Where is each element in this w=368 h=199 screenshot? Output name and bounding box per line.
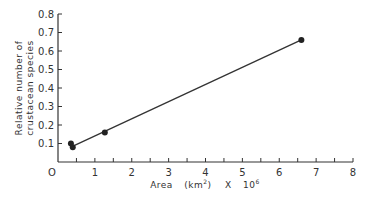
x-tick-label: 3: [165, 167, 171, 178]
y-tick-label: 0.6: [38, 46, 54, 57]
x-tick-label: 5: [239, 167, 245, 178]
y-axis-label-line1: Relative number of: [14, 40, 24, 135]
x-tick-label: 2: [129, 167, 135, 178]
y-tick-label: 0.2: [38, 120, 54, 131]
y-tick-label: 0.5: [38, 64, 54, 75]
x-tick-label: O: [48, 167, 56, 178]
y-tick-label: 0.4: [38, 83, 54, 94]
x-tick-label: 1: [92, 167, 98, 178]
y-tick-label: 0.7: [38, 27, 54, 38]
x-axis-label: Area (km2) X 106: [150, 178, 260, 190]
regression-line: [75, 40, 302, 145]
data-point: [70, 144, 76, 150]
y-tick-label: 0.3: [38, 101, 54, 112]
data-point: [102, 129, 108, 135]
x-tick-label: 6: [276, 167, 282, 178]
y-tick-label: 0.8: [38, 9, 54, 20]
x-axis-ticks: O12345678: [48, 158, 356, 178]
y-axis-label-line2: crustacean species: [25, 40, 35, 135]
axes: [58, 14, 353, 162]
x-tick-label: 4: [202, 167, 208, 178]
x-tick-label: 7: [313, 167, 319, 178]
x-tick-label: 8: [350, 167, 356, 178]
scatter-chart: 0.10.20.30.40.50.60.70.8 O12345678 Relat…: [0, 0, 368, 199]
data-point: [298, 37, 304, 43]
y-tick-label: 0.1: [38, 138, 54, 149]
